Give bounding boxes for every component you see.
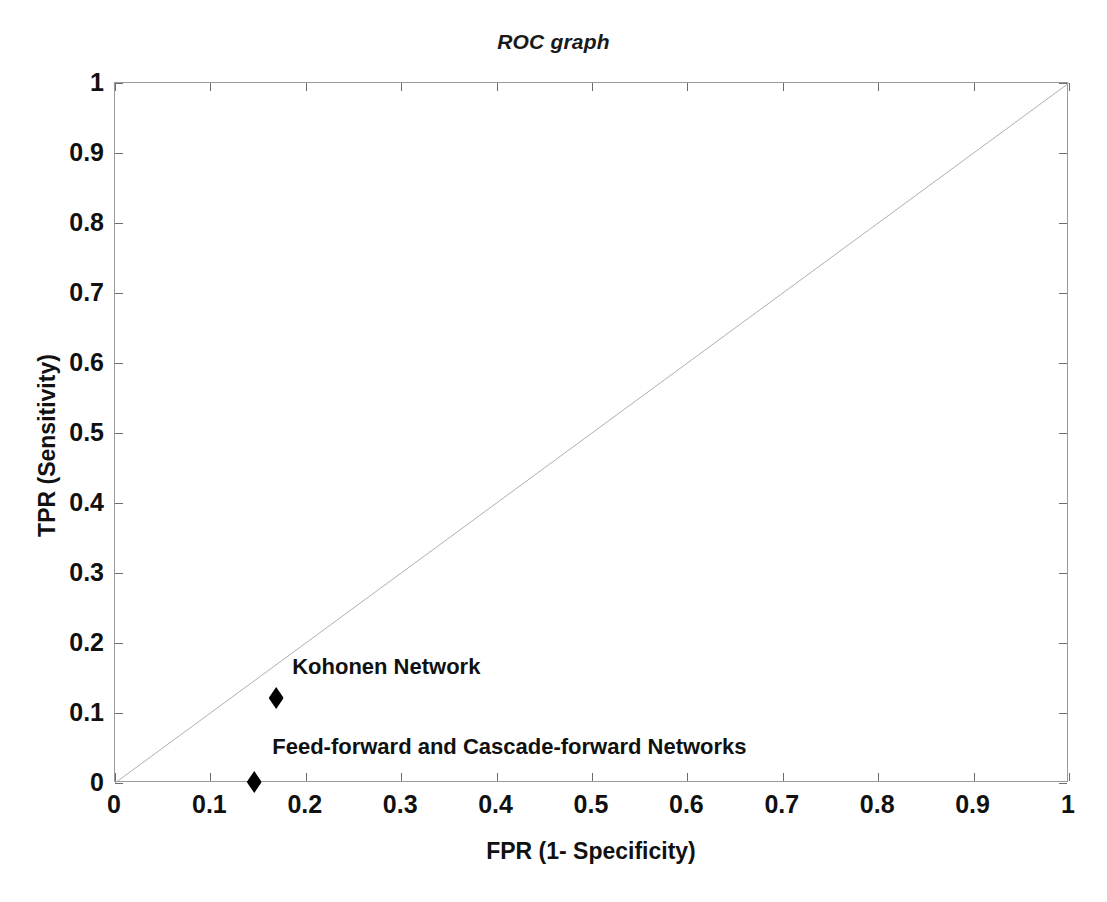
x-tick-top: [1069, 83, 1070, 91]
x-tick-label: 0.2: [287, 790, 322, 819]
x-tick-label: 0.1: [192, 790, 227, 819]
y-tick-left: [115, 433, 123, 434]
y-tick-label: 0.7: [69, 278, 104, 307]
x-tick-bottom: [306, 773, 307, 781]
x-tick-top: [401, 83, 402, 91]
y-tick-label: 0.9: [69, 138, 104, 167]
chance-diagonal-line: [115, 83, 1069, 783]
x-tick-top: [115, 83, 116, 91]
x-tick-bottom: [592, 773, 593, 781]
x-tick-label: 0.3: [383, 790, 418, 819]
x-tick-label: 0.7: [764, 790, 799, 819]
y-tick-label: 0.1: [69, 698, 104, 727]
y-tick-right: [1059, 363, 1067, 364]
x-axis-label: FPR (1- Specificity): [114, 838, 1068, 865]
y-tick-left: [115, 713, 123, 714]
y-tick-left: [115, 503, 123, 504]
y-tick-label: 1: [90, 68, 104, 97]
x-tick-bottom: [878, 773, 879, 781]
y-tick-label: 0.3: [69, 558, 104, 587]
x-tick-label: 0.8: [860, 790, 895, 819]
y-tick-right: [1059, 783, 1067, 784]
x-tick-label: 0.9: [955, 790, 990, 819]
y-tick-label: 0.8: [69, 208, 104, 237]
x-tick-label: 0.4: [478, 790, 513, 819]
y-tick-left: [115, 783, 123, 784]
y-tick-right: [1059, 83, 1067, 84]
y-tick-label: 0.6: [69, 348, 104, 377]
y-tick-right: [1059, 223, 1067, 224]
y-tick-left: [115, 363, 123, 364]
x-tick-top: [974, 83, 975, 91]
y-tick-label: 0.4: [69, 488, 104, 517]
x-tick-bottom: [210, 773, 211, 781]
y-tick-left: [115, 293, 123, 294]
data-point-annotation: Kohonen Network: [292, 654, 480, 680]
x-tick-bottom: [974, 773, 975, 781]
x-tick-top: [592, 83, 593, 91]
chart-title: ROC graph: [0, 30, 1107, 54]
y-tick-label: 0.2: [69, 628, 104, 657]
y-tick-label: 0.5: [69, 418, 104, 447]
x-tick-top: [687, 83, 688, 91]
plot-canvas: [115, 83, 1069, 783]
y-tick-left: [115, 223, 123, 224]
y-tick-left: [115, 573, 123, 574]
x-tick-bottom: [115, 773, 116, 781]
y-tick-right: [1059, 433, 1067, 434]
x-tick-bottom: [687, 773, 688, 781]
plot-area: [114, 82, 1068, 782]
y-axis-label: TPR (Sensitivity): [34, 276, 61, 616]
x-tick-bottom: [401, 773, 402, 781]
y-tick-right: [1059, 503, 1067, 504]
x-tick-label: 0: [107, 790, 121, 819]
x-tick-top: [878, 83, 879, 91]
x-tick-bottom: [1069, 773, 1070, 781]
x-tick-bottom: [783, 773, 784, 781]
y-tick-left: [115, 83, 123, 84]
x-tick-top: [210, 83, 211, 91]
y-tick-left: [115, 643, 123, 644]
x-tick-top: [783, 83, 784, 91]
roc-chart-figure: ROC graph 00.10.20.30.40.50.60.70.80.910…: [0, 0, 1107, 902]
y-tick-left: [115, 153, 123, 154]
x-tick-top: [306, 83, 307, 91]
x-tick-label: 0.5: [574, 790, 609, 819]
y-tick-right: [1059, 573, 1067, 574]
y-tick-right: [1059, 713, 1067, 714]
y-tick-right: [1059, 293, 1067, 294]
x-tick-label: 0.6: [669, 790, 704, 819]
data-point-annotation: Feed-forward and Cascade-forward Network…: [272, 734, 746, 760]
y-tick-right: [1059, 153, 1067, 154]
y-tick-right: [1059, 643, 1067, 644]
x-tick-bottom: [497, 773, 498, 781]
y-tick-label: 0: [90, 768, 104, 797]
x-tick-top: [497, 83, 498, 91]
x-tick-label: 1: [1061, 790, 1075, 819]
